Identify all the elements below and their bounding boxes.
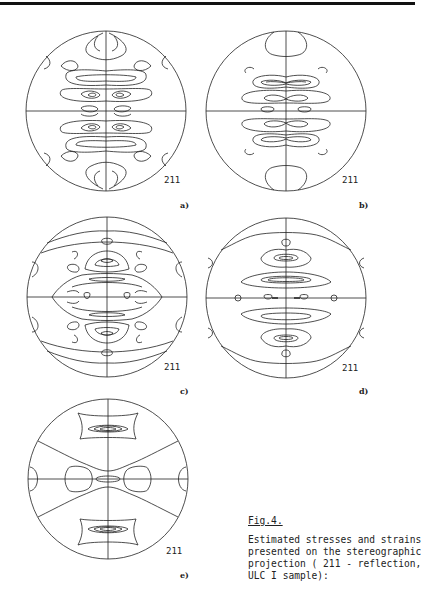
reflection-label-e: 211 [166, 546, 182, 556]
figure-caption: Fig.4. Estimated stresses and strains pr… [248, 515, 418, 582]
caption-line: presented on the stereographic [248, 546, 418, 558]
panel-letter-b: b) [359, 200, 368, 210]
panel-letter-c: c) [180, 386, 189, 396]
pole-figure-e [28, 399, 188, 559]
reflection-label-a: 211 [164, 175, 180, 185]
pole-figure-d [206, 218, 366, 378]
reflection-label-d: 211 [342, 363, 358, 373]
caption-line: projection ( 211 - reflection, [248, 558, 418, 570]
panel-letter-e: e) [180, 570, 189, 580]
pole-figure-b [206, 31, 366, 191]
pole-figure-a [26, 31, 186, 191]
pole-figure-c [27, 217, 187, 377]
caption-line: Estimated stresses and strains [248, 534, 418, 546]
caption-line: ULC I sample): [248, 570, 418, 582]
panel-letter-d: d) [359, 386, 368, 396]
reflection-label-b: 211 [342, 175, 358, 185]
figure-number: Fig.4. [248, 515, 283, 527]
reflection-label-c: 211 [164, 362, 180, 372]
panel-letter-a: a) [180, 200, 189, 210]
